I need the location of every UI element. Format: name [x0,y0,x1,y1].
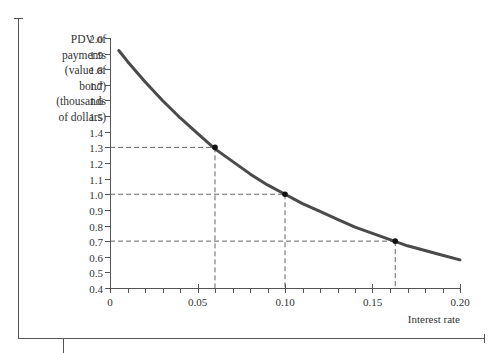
x-tick-label: 0.15 [363,296,383,308]
data-point [212,145,218,151]
dashed-guides [110,147,395,288]
y-tick-label: 0.6 [89,252,103,264]
y-tick-label: 1.2 [89,158,103,170]
y-tick-label: 1.4 [89,127,103,139]
x-tick-label: 0.10 [275,296,295,308]
x-tick-label: 0.05 [188,296,208,308]
y-tick-label: 0.7 [89,236,103,248]
x-tick-label: 0 [107,296,113,308]
y-axis-title-line: bond) [44,79,106,95]
y-axis-title-line: (thousands [44,94,106,110]
y-axis-title-line: (value of [44,63,106,79]
y-tick-label: 0.9 [89,205,103,217]
x-tick-label: 0.20 [450,296,470,308]
y-tick-label: 0.5 [89,267,103,279]
y-tick-label: 1.1 [89,174,103,186]
data-point [282,191,288,197]
y-tick-label: 1.0 [89,189,103,201]
y-axis-title-line: of dollars) [44,110,106,126]
y-tick-label: 0.4 [89,283,103,295]
axes: 0.40.50.60.70.80.91.01.11.21.31.41.51.61… [89,33,470,309]
y-axis-title: PDV of payments (value of bond) (thousan… [44,32,106,126]
y-axis-title-line: PDV of [44,32,106,48]
y-tick-label: 1.3 [89,142,103,154]
x-axis-title: Interest rate [408,313,460,325]
pdv-curve [119,51,460,260]
y-axis-title-line: payments [44,48,106,64]
y-tick-label: 0.8 [89,221,103,233]
data-point [392,238,398,244]
